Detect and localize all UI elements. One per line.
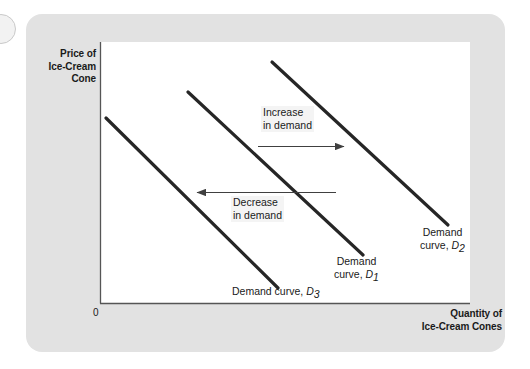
demand-curve-d3-subscript: 3: [314, 288, 320, 300]
demand-curve-d2-symbol: D2: [452, 239, 465, 251]
y-axis-title: Price of Ice-Cream Cone: [26, 48, 96, 86]
demand-curve-d1-symbol: D1: [366, 268, 379, 280]
decrease-in-demand-label: Decrease in demand: [231, 196, 284, 222]
demand-curve-d3-label-text: Demand curve,: [232, 285, 306, 297]
origin-label: 0: [93, 307, 99, 318]
demand-curve-d2-label: Demand curve, D2: [420, 226, 465, 255]
demand-curve-d1-subscript: 1: [373, 271, 379, 283]
increase-in-demand-label: Increase in demand: [261, 106, 314, 132]
demand-curve-d2: [272, 62, 448, 225]
demand-curve-d3-symbol: D3: [306, 285, 319, 297]
demand-curve-d3-label: Demand curve, D3: [232, 285, 320, 301]
demand-curve-d1-label: Demand curve, D1: [334, 255, 379, 284]
demand-curve-d2-subscript: 2: [459, 242, 465, 254]
x-axis-title: Quantity of Ice-Cream Cones: [330, 308, 502, 333]
